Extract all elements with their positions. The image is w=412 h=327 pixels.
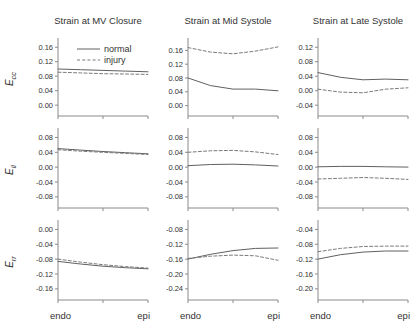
- y-tick-label: 0.00: [168, 163, 183, 172]
- chart-svg: 0.00-0.04-0.08-0.12-0.16: [22, 216, 152, 308]
- chart-row-err: Err 0.00-0.04-0.08-0.12-0.16 -0.08-0.12-…: [0, 216, 412, 308]
- row-label-err: Err: [0, 216, 22, 308]
- y-tick-label: 0.04: [38, 148, 53, 157]
- x-label-epi: epi: [267, 310, 280, 321]
- series-line-normal: [318, 251, 408, 259]
- y-tick-label: -0.24: [166, 284, 183, 293]
- legend-label-injury: injury: [104, 55, 126, 65]
- x-label-endo: endo: [50, 310, 71, 321]
- column-titles-row: Strain at MV Closure Strain at Mid Systo…: [0, 0, 412, 34]
- col-title-mid-systole: Strain at Mid Systole: [152, 15, 282, 34]
- y-tick-label: -0.04: [296, 178, 313, 187]
- y-tick-label: -0.08: [36, 192, 53, 201]
- row-label-ell: Ell: [0, 124, 22, 216]
- panel-ell-mv-closure: 0.080.040.00-0.04-0.08: [22, 124, 152, 216]
- y-tick-label: 0.08: [38, 72, 53, 81]
- axes: [55, 220, 148, 303]
- x-label-epi: epi: [137, 310, 150, 321]
- x-axis-labels-row: endo epi endo epi endo epi: [0, 308, 412, 327]
- y-tick-label: -0.16: [296, 270, 313, 279]
- y-tick-label: -0.08: [296, 240, 313, 249]
- chart-row-ell: Ell 0.080.040.00-0.04-0.08 0.080.040.00-…: [0, 124, 412, 216]
- series-line-normal: [58, 69, 148, 72]
- y-tick-label: -0.04: [296, 101, 313, 110]
- axes: [315, 38, 408, 119]
- chart-row-ecc: Ecc 0.160.120.080.040.00normalinjury 0.1…: [0, 34, 412, 124]
- axes: [315, 128, 408, 211]
- y-tick-label: -0.12: [36, 270, 53, 279]
- y-tick-label: 0.04: [298, 148, 313, 157]
- series-line-normal: [318, 73, 408, 80]
- col-title-late-systole: Strain at Late Systole: [282, 15, 412, 34]
- y-tick-label: 0.00: [298, 163, 313, 172]
- axes: [55, 38, 148, 119]
- y-tick-label: 0.12: [168, 60, 183, 69]
- chart-svg: 0.080.040.00-0.04-0.08: [22, 124, 152, 216]
- panel-ecc-late-systole: 0.120.080.040.00-0.04: [282, 34, 412, 124]
- panel-err-mv-closure: 0.00-0.04-0.08-0.12-0.16: [22, 216, 152, 308]
- panel-err-mid-systole: -0.08-0.12-0.16-0.20-0.24: [152, 216, 282, 308]
- series-line-injury: [58, 150, 148, 155]
- chart-svg: 0.080.040.00-0.04-0.08: [152, 124, 282, 216]
- legend-label-normal: normal: [104, 44, 132, 54]
- y-tick-label: 0.08: [298, 57, 313, 66]
- chart-svg: 0.160.120.080.040.00normalinjury: [22, 34, 152, 124]
- y-tick-label: 0.12: [38, 57, 53, 66]
- axes: [185, 220, 278, 303]
- y-tick-label: 0.00: [298, 86, 313, 95]
- panel-ell-mid-systole: 0.080.040.00-0.04-0.08: [152, 124, 282, 216]
- y-tick-label: -0.08: [166, 225, 183, 234]
- chart-svg: 0.080.040.00-0.04-0.08: [282, 124, 412, 216]
- y-tick-label: 0.04: [168, 148, 183, 157]
- series-line-injury: [188, 47, 278, 54]
- y-tick-label: 0.00: [38, 101, 53, 110]
- y-tick-label: -0.12: [166, 240, 183, 249]
- y-tick-label: 0.16: [168, 46, 183, 55]
- x-labels-col1: endo epi: [22, 310, 152, 321]
- series-line-normal: [58, 261, 148, 268]
- panel-ecc-mid-systole: 0.160.120.080.040.00: [152, 34, 282, 124]
- chart-svg: 0.160.120.080.040.00: [152, 34, 282, 124]
- y-tick-label: -0.16: [36, 284, 53, 293]
- row-label-ecc: Ecc: [0, 34, 22, 124]
- y-tick-label: 0.04: [298, 72, 313, 81]
- axes: [315, 220, 408, 303]
- chart-svg: 0.120.080.040.00-0.04: [282, 34, 412, 124]
- y-tick-label: -0.16: [166, 255, 183, 264]
- series-line-normal: [58, 149, 148, 154]
- series-line-injury: [318, 88, 408, 93]
- y-tick-label: -0.12: [296, 255, 313, 264]
- series-line-normal: [188, 164, 278, 166]
- series-line-injury: [318, 178, 408, 180]
- y-tick-label: 0.00: [168, 101, 183, 110]
- y-tick-label: 0.08: [38, 133, 53, 142]
- y-tick-label: -0.20: [296, 284, 313, 293]
- y-tick-label: -0.04: [166, 178, 183, 187]
- y-tick-label: -0.04: [36, 240, 53, 249]
- axes: [185, 128, 278, 211]
- x-labels-col3: endo epi: [282, 310, 412, 321]
- series-line-normal: [188, 78, 278, 91]
- y-tick-label: -0.08: [36, 255, 53, 264]
- y-tick-label: 0.12: [298, 43, 313, 52]
- y-tick-label: -0.08: [296, 192, 313, 201]
- panel-ell-late-systole: 0.080.040.00-0.04-0.08: [282, 124, 412, 216]
- series-line-injury: [188, 150, 278, 154]
- x-label-endo: endo: [180, 310, 201, 321]
- chart-svg: -0.08-0.12-0.16-0.20-0.24: [152, 216, 282, 308]
- strain-small-multiples-figure: Strain at MV Closure Strain at Mid Systo…: [0, 0, 412, 327]
- series-line-injury: [58, 72, 148, 74]
- col-title-mv-closure: Strain at MV Closure: [22, 15, 152, 34]
- chart-svg: -0.04-0.08-0.12-0.16-0.20: [282, 216, 412, 308]
- y-tick-label: -0.04: [296, 225, 313, 234]
- y-tick-label: 0.16: [38, 43, 53, 52]
- x-label-endo: endo: [310, 310, 331, 321]
- x-label-epi: epi: [397, 310, 410, 321]
- axes: [55, 128, 148, 211]
- y-tick-label: 0.08: [168, 74, 183, 83]
- y-tick-label: 0.08: [298, 133, 313, 142]
- series-line-normal: [318, 166, 408, 167]
- y-tick-label: 0.00: [38, 163, 53, 172]
- y-tick-label: 0.04: [38, 86, 53, 95]
- y-tick-label: -0.08: [166, 192, 183, 201]
